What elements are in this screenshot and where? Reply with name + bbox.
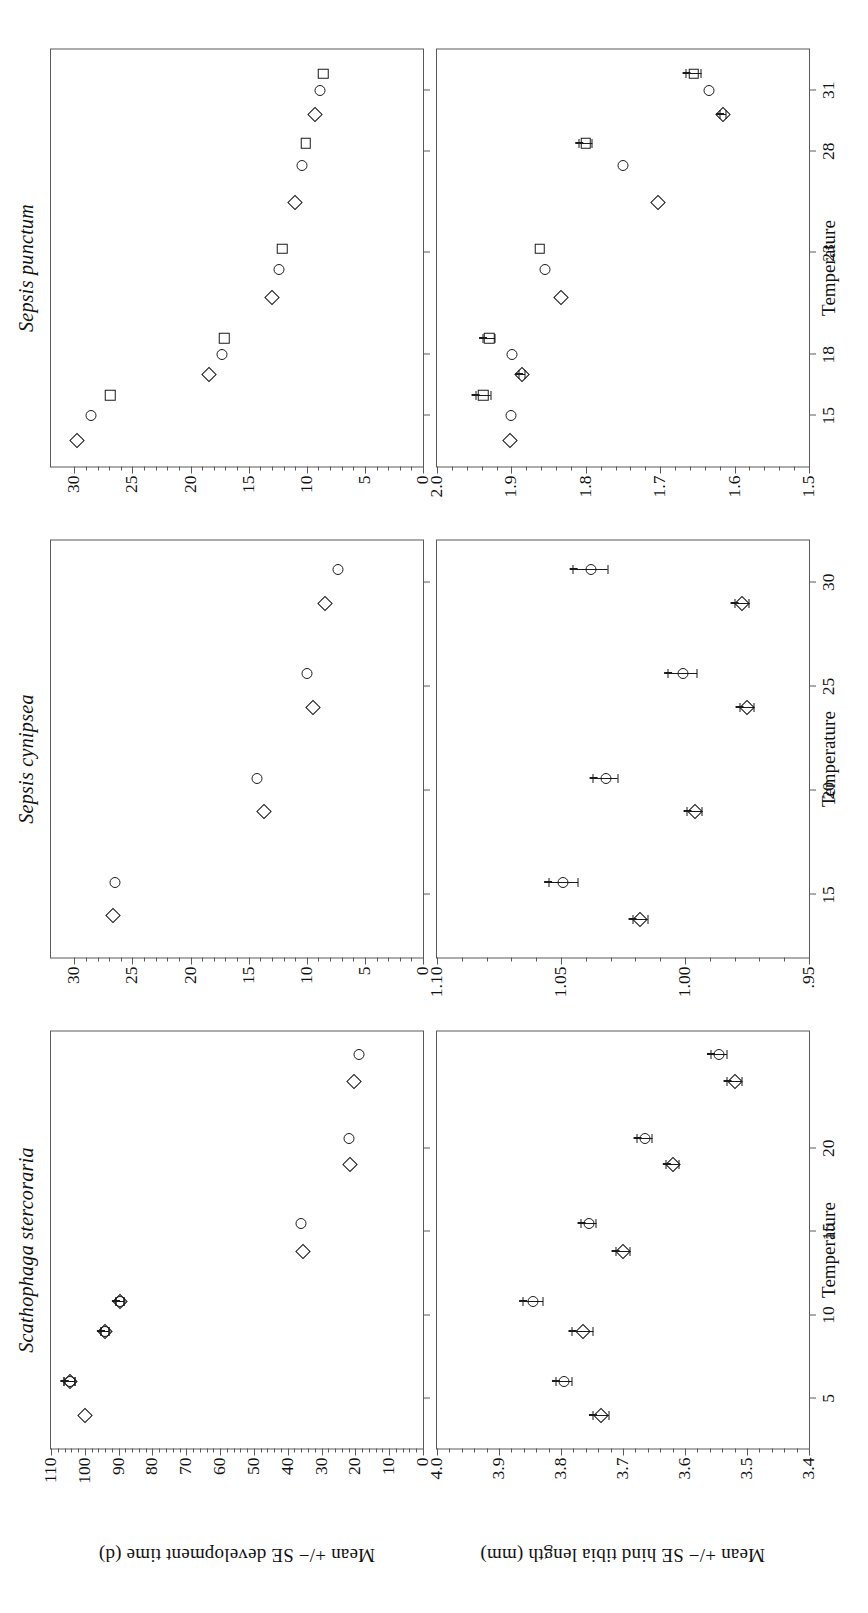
x-tick [809,251,816,252]
x-tick [423,581,430,582]
y-tick-minor [240,1448,241,1452]
data-point-circle [301,668,312,679]
y-tick-minor [749,466,750,470]
y-tick-label: 4.0 [428,1457,446,1479]
error-bar-cap [697,669,698,678]
y-tick [191,466,192,473]
y-tick [747,1448,748,1455]
y-tick-minor [586,1448,587,1452]
y-tick-minor [645,466,646,470]
y-tick [355,1448,356,1455]
data-point-square [105,390,116,401]
y-tick-minor [167,466,168,470]
y-tick-minor [462,957,463,961]
y-tick-label: 3.9 [490,1457,508,1479]
y-tick-minor [156,957,157,961]
x-tick-label: 20 [820,781,838,799]
y-tick-minor [797,1448,798,1452]
y-tick-minor [173,1448,174,1452]
data-point-circle [677,668,688,679]
data-point-diamond [514,367,530,383]
error-bar-cap [608,565,609,574]
data-point-square [581,137,592,148]
y-tick-minor [193,1448,194,1452]
error-bar-cap [572,1377,573,1386]
error-bar-cap [490,390,491,399]
y-tick-minor [541,466,542,470]
y-tick-minor [180,1448,181,1452]
x-tick [809,685,816,686]
data-point-diamond [264,289,280,305]
y-tick-label: 3.6 [676,1457,694,1479]
data-point-diamond [650,194,666,210]
y-tick-label: 110 [42,1457,60,1483]
y-tick-minor [673,1448,674,1452]
y-tick-minor [272,466,273,470]
y-tick-minor [377,466,378,470]
data-point-square [219,333,230,344]
y-tick-minor [109,957,110,961]
panel-tibia-scathophaga: 3.43.53.63.73.83.94.05101520 [430,1004,816,1495]
data-point-diamond [615,1243,631,1259]
data-point-diamond [305,699,321,715]
error-bar-cap [495,333,496,342]
y-tick-label: 15 [240,966,258,984]
y-tick-minor [411,957,412,961]
data-point-circle [333,564,344,575]
y-tick-minor [660,1448,661,1452]
data-point-circle [583,1217,594,1228]
y-tick-minor [710,1448,711,1452]
x-tick [423,1230,430,1231]
y-tick-minor [247,1448,248,1452]
y-tick-label: 60 [211,1457,229,1475]
data-point-diamond [307,106,323,122]
x-tick [809,353,816,354]
y-tick-minor [416,1448,417,1452]
error-bar-cap [686,69,687,78]
panel-dev-punctum: 0510152025301518232831 [44,22,430,513]
y-tick-label: 10 [298,475,316,493]
y-tick [423,466,424,473]
error-bar-cap [618,773,619,782]
y-tick-label: 25 [124,966,142,984]
x-tick-label: 15 [820,886,838,904]
figure-panel-grid: Scathophaga stercoraria Sepsis cynipsea … [0,0,868,1613]
data-point-square [300,137,311,148]
error-bar-cap [523,1297,524,1306]
data-point-circle [585,564,596,575]
y-tick-label: 5 [356,475,374,484]
y-tick [809,466,810,473]
y-tick-minor [601,466,602,470]
x-tick [809,1397,816,1398]
y-tick-label: 80 [144,1457,162,1475]
x-tick [423,893,430,894]
y-tick-minor [86,957,87,961]
y-tick-label: 70 [178,1457,196,1475]
panel-title-punctum: Sepsis punctum [0,22,44,513]
y-tick-minor [272,957,273,961]
error-bar-cap [579,138,580,147]
data-point-circle [506,410,517,421]
y-tick [561,1448,562,1455]
y-tick-minor [411,466,412,470]
y-tick-minor [207,1448,208,1452]
y-tick [254,1448,255,1455]
panel-title-scathophaga: Scathophaga stercoraria [0,1004,44,1495]
y-tick [437,466,438,473]
y-tick-minor [536,1448,537,1452]
y-tick-minor [225,957,226,961]
data-point-diamond [553,289,569,305]
y-tick-minor [616,466,617,470]
data-point-diamond [295,1243,311,1259]
y-tick-minor [318,957,319,961]
y-tick-minor [556,466,557,470]
panel-dev-cynipsea: 05101520253015202530 [44,513,430,1004]
y-tick-minor [735,957,736,961]
y-tick [74,957,75,964]
y-tick-label: 10 [380,1457,398,1475]
y-tick-minor [156,466,157,470]
y-tick-minor [308,1448,309,1452]
data-point-square [484,333,495,344]
y-tick-minor [611,957,612,961]
y-tick-label: 100 [76,1457,94,1483]
